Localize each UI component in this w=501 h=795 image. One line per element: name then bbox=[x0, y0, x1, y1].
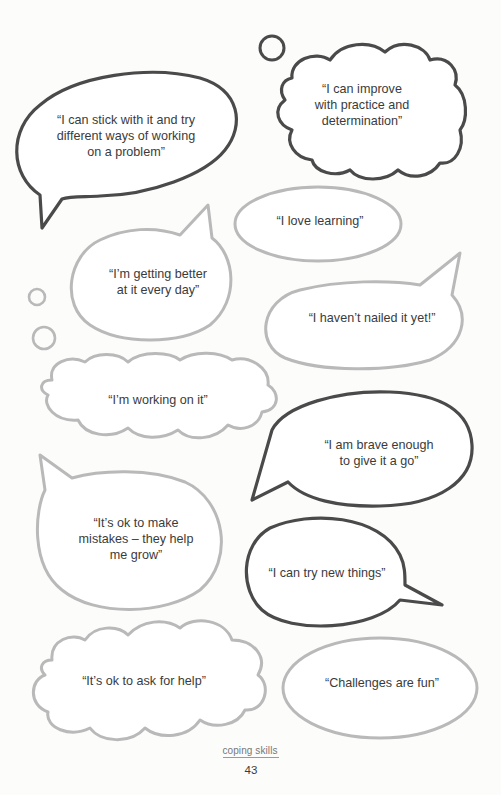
bubble-text-working-on-it: “I’m working on it” bbox=[108, 392, 207, 408]
bubble-text-improve-practice: “I can improve with practice and determi… bbox=[315, 81, 410, 129]
thought-dot bbox=[260, 36, 284, 60]
section-label: coping skills bbox=[222, 745, 277, 756]
bubble-text-stick-with-it: “I can stick with it and try different w… bbox=[57, 112, 195, 160]
bubble-text-try-new-things: “I can try new things” bbox=[269, 565, 386, 581]
worksheet-page: “I can stick with it and try different w… bbox=[0, 0, 501, 795]
footer-divider bbox=[223, 757, 279, 758]
bubble-text-havent-nailed: “I haven’t nailed it yet!” bbox=[309, 310, 436, 326]
bubble-text-ok-mistakes: “It’s ok to make mistakes – they help me… bbox=[79, 515, 194, 563]
page-number: 43 bbox=[245, 764, 258, 776]
thought-dot bbox=[33, 327, 55, 349]
bubble-text-ask-for-help: “It’s ok to ask for help” bbox=[82, 673, 206, 689]
bubble-text-challenges-fun: “Challenges are fun” bbox=[325, 675, 439, 691]
thought-dot bbox=[29, 289, 45, 305]
bubble-text-brave-enough: “I am brave enough to give it a go” bbox=[324, 437, 433, 469]
bubble-text-love-learning: “I love learning” bbox=[277, 213, 364, 229]
bubble-text-getting-better: “I’m getting better at it every day” bbox=[109, 266, 207, 298]
